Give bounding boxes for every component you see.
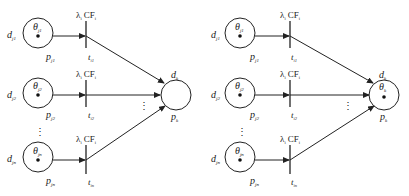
transition-n: λiCFi tin	[280, 134, 301, 188]
p-label: pj2	[45, 109, 55, 121]
p-label: pjn	[249, 175, 259, 187]
token-dot	[36, 34, 40, 38]
token-dot	[36, 158, 40, 162]
p-label: pj1	[45, 51, 55, 63]
place-circle	[369, 80, 399, 110]
input-place-1: θj1 dj1 pj1	[211, 18, 259, 63]
theta-label: θj1	[235, 21, 244, 33]
ellipsis-places: ⋮	[35, 126, 45, 137]
place-circle	[23, 78, 53, 108]
p-label: pjn	[45, 175, 55, 187]
ellipsis-arcs: ⋮	[343, 100, 353, 111]
lambda-cf-label: λiCFi	[280, 134, 301, 145]
input-place-n: θjn djn pjn	[7, 142, 55, 187]
theta-label: θj1	[33, 21, 42, 33]
d-label: dk	[171, 69, 179, 81]
input-place-n: θjn djn pjn	[211, 142, 259, 187]
ellipsis-arcs: ⋮	[139, 100, 149, 111]
arc-transition-to-output-1	[290, 36, 373, 83]
theta-label: θjn	[235, 145, 244, 157]
lambda-cf-label: λiCFi	[76, 69, 97, 80]
input-place-2: θj2 dj2 pj2	[7, 78, 55, 121]
transition-n: λiCFi tin	[76, 134, 97, 188]
left-panel: θj1 dj1 pj1 λiCFi ti1 θj2 dj2 pj2 λiCFi …	[7, 10, 191, 188]
theta-label: θk	[379, 81, 387, 93]
theta-label: θj2	[33, 80, 42, 92]
p-label: pk	[379, 111, 388, 123]
t-label: ti1	[88, 52, 94, 63]
arc-transition-to-output-1	[86, 36, 164, 83]
d-label: dk	[379, 69, 387, 81]
t-label: ti1	[291, 52, 297, 63]
place-circle	[23, 142, 53, 172]
ellipsis-places: ⋮	[237, 126, 247, 137]
fuzzy-petri-net-diagram: θj1 dj1 pj1 λiCFi ti1 θj2 dj2 pj2 λiCFi …	[0, 0, 409, 196]
p-label: pj2	[249, 109, 259, 121]
d-label: dj1	[211, 29, 220, 41]
lambda-cf-label: λiCFi	[76, 10, 97, 21]
theta-label: θjn	[33, 145, 42, 157]
right-panel: θj1 dj1 pj1 λiCFi ti1 θj2 dj2 pj2 λiCFi …	[211, 10, 399, 188]
arc-transition-to-output-n	[86, 106, 165, 160]
place-circle	[23, 18, 53, 48]
place-circle	[225, 78, 255, 108]
lambda-cf-label: λiCFi	[76, 134, 97, 145]
token-dot	[238, 93, 242, 97]
t-label: ti2	[291, 110, 298, 121]
output-place: θk dk pk	[369, 69, 399, 123]
t-label: tin	[291, 177, 298, 188]
input-place-2: θj2 dj2 pj2	[211, 78, 259, 121]
place-circle	[225, 142, 255, 172]
lambda-cf-label: λiCFi	[280, 10, 301, 21]
input-place-1: θj1 dj1 pj1	[7, 18, 55, 63]
token-dot	[382, 95, 386, 99]
output-place: dk pk	[161, 69, 191, 123]
token-dot	[238, 34, 242, 38]
d-label: djn	[211, 153, 220, 165]
arc-transition-to-output-n	[290, 106, 374, 160]
token-dot	[36, 93, 40, 97]
p-label: pj1	[249, 51, 259, 63]
d-label: dj2	[211, 89, 220, 101]
theta-label: θj2	[235, 80, 244, 92]
place-circle	[161, 80, 191, 110]
lambda-cf-label: λiCFi	[280, 69, 301, 80]
d-label: djn	[7, 153, 16, 165]
d-label: dj1	[7, 29, 16, 41]
t-label: ti2	[88, 110, 95, 121]
token-dot	[238, 158, 242, 162]
place-circle	[225, 18, 255, 48]
p-label: pk	[170, 111, 179, 123]
d-label: dj2	[7, 89, 16, 101]
t-label: tin	[88, 177, 95, 188]
